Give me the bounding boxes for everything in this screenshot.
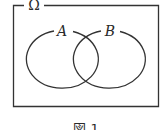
set-a-circle bbox=[26, 31, 98, 88]
figure-caption: 図 1 bbox=[73, 121, 98, 130]
universe-label: Ω bbox=[28, 0, 40, 13]
universe-rectangle bbox=[14, 6, 159, 107]
set-b-label: B bbox=[104, 23, 115, 39]
set-b-circle bbox=[73, 31, 145, 88]
set-a-label: A bbox=[55, 23, 67, 39]
venn-diagram: Ω A B 図 1 bbox=[0, 0, 165, 130]
